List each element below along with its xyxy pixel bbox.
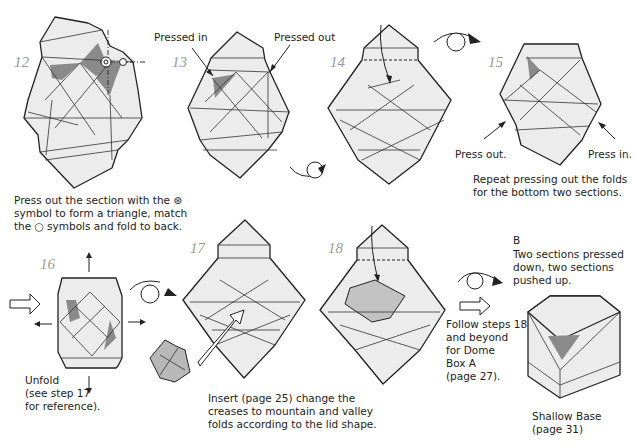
step-number: 15 [488,54,503,71]
callout-pressed-out: Pressed out [274,31,335,44]
callout-press-in: Press in. [588,148,632,161]
step-number: 16 [40,256,55,273]
step-15-caption: Repeat pressing out the foldsfor the bot… [473,173,627,199]
step-12-caption: Press out the section with the ⊛symbol t… [14,194,187,233]
step-16-figure [34,252,146,394]
push-arrow-icon [460,297,490,315]
variant-b-follow: Follow steps 18and beyondfor DomeBox A(p… [446,318,527,383]
step-14-figure [328,25,451,184]
callout-pressed-in: Pressed in [154,31,208,44]
variant-b-label: B [513,234,520,247]
step-16-caption: Unfold(see step 17for reference). [25,374,100,413]
step-15-figure [484,44,615,165]
callout-press-out: Press out. [455,148,507,161]
variant-b-description: Two sections presseddown, two sectionspu… [513,248,624,287]
step-number: 12 [14,54,29,71]
step-number: 17 [190,240,205,257]
step-number: 13 [172,54,187,71]
turn-over-icon [434,33,481,51]
shallow-base-figure [528,296,620,398]
turn-over-icon [130,281,177,303]
step-17-figure [150,220,305,382]
step-number: 18 [328,240,343,257]
turn-over-icon [290,162,326,178]
step-17-caption: Insert (page 25) change thecreases to mo… [208,392,377,431]
step-12-figure [24,17,146,188]
shallow-base-label: Shallow Base(page 31) [532,410,602,436]
step-13-figure [188,32,290,178]
turn-over-icon [458,273,503,289]
step-number: 14 [330,54,345,71]
push-arrow-icon [10,294,40,314]
